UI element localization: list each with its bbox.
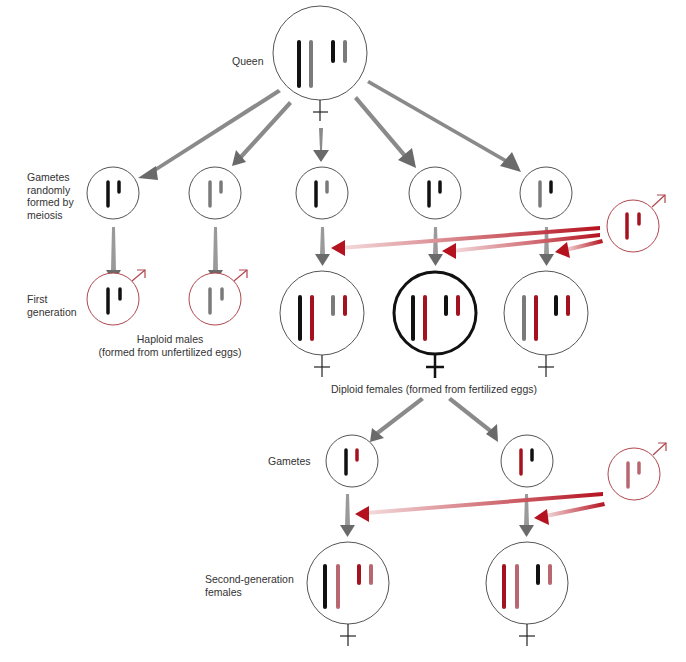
male-symbol-icon	[132, 270, 145, 281]
male-symbol-icon	[653, 443, 666, 455]
label-second-generation: Second-generation females	[205, 573, 294, 598]
female-to-gametes2-arrows	[370, 397, 498, 442]
red-arrow-3	[555, 239, 603, 258]
gamete-5	[520, 167, 572, 219]
arrow-down-3	[315, 227, 330, 266]
drone1-to-females-arrows	[331, 226, 603, 259]
second-gen-female-2	[486, 542, 568, 646]
label-line: generation	[27, 306, 77, 319]
gamete-2	[189, 167, 241, 219]
label-line: randomly	[27, 184, 74, 197]
male-symbol-icon	[652, 195, 665, 207]
label-line: Gametes	[27, 171, 74, 184]
arrow-female-gamete2-1	[370, 397, 424, 442]
female-symbol-icon	[538, 355, 554, 377]
gamete2-2	[501, 435, 553, 487]
female-symbol-icon	[426, 354, 444, 378]
label-line: formed by	[27, 196, 74, 209]
gamete-4	[409, 167, 461, 219]
red-arrow-g2-2	[534, 502, 605, 525]
arrow-down-4	[428, 227, 443, 266]
haploid-male-1	[87, 270, 145, 325]
label-gametes: Gametes	[268, 455, 311, 468]
label-line: Haploid males	[90, 333, 250, 346]
label-line: (formed from unfertilized eggs)	[90, 346, 250, 359]
arrow-queen-gamete-5	[367, 80, 521, 172]
label-line: females	[205, 586, 294, 599]
arrow-queen-gamete-2	[232, 101, 292, 166]
female-symbol-icon	[519, 624, 535, 646]
arrow-queen-gamete-4	[354, 96, 416, 168]
label-line: First	[27, 293, 77, 306]
male-symbol-icon	[234, 270, 247, 281]
father-drone-1	[607, 195, 665, 252]
gamete2-1	[326, 435, 378, 487]
gamete-1	[87, 167, 139, 219]
drone2-to-females-arrows	[355, 492, 605, 525]
label-haploid-males: Haploid males (formed from unfertilized …	[90, 333, 250, 358]
diploid-female-1	[280, 271, 364, 377]
red-arrow-g2-1	[355, 492, 603, 522]
arrow-female-gamete2-2	[448, 397, 498, 442]
label-gametes-meiosis: Gametes randomly formed by meiosis	[27, 171, 74, 221]
father-drone-2	[608, 443, 666, 500]
diploid-female-3	[504, 271, 588, 377]
haploid-male-2	[189, 270, 247, 325]
gamete-3	[296, 167, 348, 219]
female-symbol-icon	[313, 100, 328, 121]
female-symbol-icon	[340, 624, 356, 646]
label-first-generation: First generation	[27, 293, 77, 318]
female-symbol-icon	[314, 355, 330, 377]
label-line: meiosis	[27, 209, 74, 222]
second-gen-female-1	[307, 542, 389, 646]
label-diploid-females: Diploid females (formed from fertilized …	[331, 383, 537, 396]
label-line: Second-generation	[205, 573, 294, 586]
honeybee-haplodiploidy-diagram	[0, 0, 686, 662]
arrow-down-g2-1	[340, 494, 355, 537]
label-queen: Queen	[232, 55, 264, 68]
arrow-queen-gamete-3	[313, 128, 329, 162]
diploid-female-2-emphasized	[394, 272, 476, 378]
